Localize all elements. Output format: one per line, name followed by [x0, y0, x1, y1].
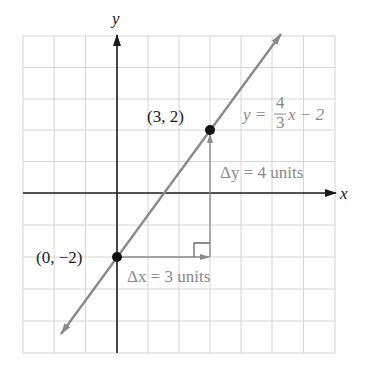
point-3-2	[205, 125, 215, 135]
point-0-neg2	[112, 252, 122, 262]
right-angle-marker	[194, 243, 210, 257]
slope-diagram: x y (3, 2) (0, −2) Δy = 4 units Δx = 3 u…	[0, 0, 366, 371]
delta-y-label: Δy = 4 units	[220, 163, 303, 182]
delta-x-label: Δx = 3 units	[127, 267, 210, 286]
point-label-0-neg2: (0, −2)	[36, 248, 82, 267]
y-axis-label: y	[110, 9, 120, 28]
equation-numerator: 4	[276, 93, 285, 112]
equation-rhs: x − 2	[287, 105, 325, 124]
equation-lhs: y =	[241, 105, 266, 124]
grid	[23, 36, 335, 353]
x-axis-label: x	[339, 184, 348, 203]
equation-denominator: 3	[276, 113, 285, 132]
point-label-3-2: (3, 2)	[147, 107, 184, 126]
